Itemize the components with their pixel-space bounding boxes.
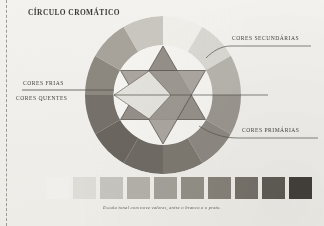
tonal-scale-strip	[46, 177, 312, 199]
scanned-page: CÍRCULO CROMÁTICO	[0, 0, 324, 226]
color-wheel-diagram	[83, 16, 243, 174]
tonal-scale-swatch	[73, 177, 96, 199]
tonal-scale-swatch	[181, 177, 204, 199]
tonal-scale-swatch	[100, 177, 123, 199]
tonal-scale-swatch	[127, 177, 150, 199]
label-cores-secundarias: CORES SECUNDÁRIAS	[232, 35, 299, 41]
label-cores-primarias: CORES PRIMÁRIAS	[242, 127, 299, 133]
tonal-scale-swatch	[289, 177, 312, 199]
page-binding-dashed-line	[6, 0, 7, 226]
tonal-scale-swatch	[46, 177, 69, 199]
tonal-scale-swatch	[262, 177, 285, 199]
figure-caption: Escala tonal com nove valores, entre o b…	[0, 205, 324, 210]
color-wheel-svg	[83, 16, 243, 174]
tonal-scale-swatch	[235, 177, 258, 199]
tonal-scale-swatch	[208, 177, 231, 199]
tonal-scale-swatch	[154, 177, 177, 199]
label-cores-frias: CORES FRIAS	[23, 80, 64, 86]
label-cores-quentes: CORES QUENTES	[16, 95, 67, 101]
